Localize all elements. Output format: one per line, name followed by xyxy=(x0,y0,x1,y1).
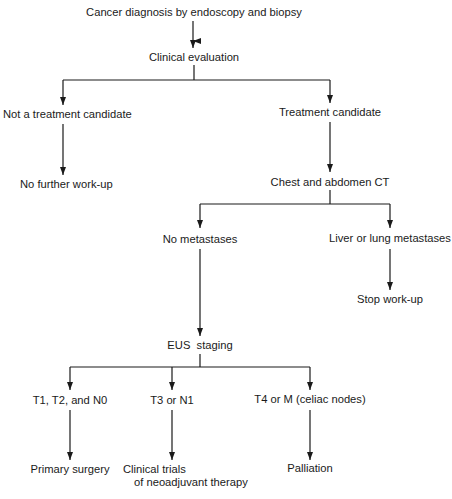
node-clinical-trials: Clinical trials of neoadjuvant therapy xyxy=(123,463,248,489)
node-not-treatment-candidate: Not a treatment candidate xyxy=(3,108,132,121)
node-stop-workup: Stop work-up xyxy=(357,293,423,306)
connector-lines xyxy=(0,0,452,499)
node-t1-t2-n0: T1, T2, and N0 xyxy=(33,394,107,407)
node-diagnosis: Cancer diagnosis by endoscopy and biopsy xyxy=(86,6,302,19)
node-chest-abdomen-ct: Chest and abdomen CT xyxy=(271,176,390,189)
node-no-further-workup: No further work-up xyxy=(20,178,113,191)
node-no-metastases: No metastases xyxy=(163,233,238,246)
node-clinical-evaluation: Clinical evaluation xyxy=(149,51,239,64)
node-primary-surgery: Primary surgery xyxy=(31,463,110,476)
clinical-trials-line2: of neoadjuvant therapy xyxy=(123,476,248,489)
node-palliation: Palliation xyxy=(287,462,332,475)
node-treatment-candidate: Treatment candidate xyxy=(279,106,381,119)
flowchart: Cancer diagnosis by endoscopy and biopsy… xyxy=(0,0,452,499)
node-liver-lung-metastases: Liver or lung metastases xyxy=(329,232,451,245)
node-t4-m-celiac: T4 or M (celiac nodes) xyxy=(254,393,365,406)
node-eus-staging: EUS staging xyxy=(167,339,232,352)
node-t3-n1: T3 or N1 xyxy=(150,394,194,407)
clinical-trials-line1: Clinical trials xyxy=(123,463,248,476)
